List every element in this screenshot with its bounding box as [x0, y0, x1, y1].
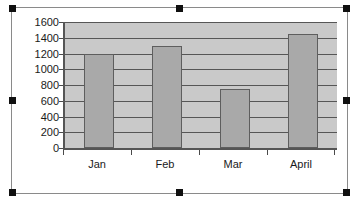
resize-handle-middle-left[interactable] [9, 97, 16, 104]
y-axis-tick-label: 1200 [15, 49, 59, 59]
x-axis-label-feb: Feb [131, 158, 199, 171]
x-axis-tick-mark [131, 150, 132, 155]
y-axis-tick-label: 800 [15, 80, 59, 90]
x-axis-tick-mark [63, 150, 64, 155]
x-axis-label-jan: Jan [63, 158, 131, 171]
bar-feb[interactable] [152, 46, 182, 148]
resize-handle-middle-right[interactable] [343, 97, 350, 104]
resize-handle-bottom-center[interactable] [176, 189, 183, 196]
y-axis-tick-label: 600 [15, 96, 59, 106]
x-axis-labels: JanFebMarApril [63, 158, 335, 174]
x-axis-tick-mark [199, 150, 200, 155]
selected-chart-object[interactable]: 16001400120010008006004002000 JanFebMarA… [11, 7, 348, 194]
resize-handle-bottom-right[interactable] [343, 189, 350, 196]
x-axis-label-april: April [267, 158, 335, 171]
plot-area [63, 22, 337, 150]
y-axis-tick-label: 200 [15, 127, 59, 137]
x-axis-ticks [63, 150, 335, 155]
resize-handle-top-right[interactable] [343, 5, 350, 12]
bar-jan[interactable] [84, 54, 114, 149]
y-axis-tick-label: 0 [15, 143, 59, 153]
resize-handle-top-left[interactable] [9, 5, 16, 12]
y-axis-tick-label: 1000 [15, 64, 59, 74]
y-axis-labels: 16001400120010008006004002000 [12, 22, 59, 148]
x-axis-tick-mark [334, 150, 335, 155]
bar-mar[interactable] [220, 89, 250, 148]
resize-handle-bottom-left[interactable] [9, 189, 16, 196]
y-axis-tick-label: 1600 [15, 17, 59, 27]
bar-april[interactable] [288, 34, 318, 148]
resize-handle-top-center[interactable] [176, 5, 183, 12]
x-axis-tick-mark [267, 150, 268, 155]
gridline-1600 [65, 22, 337, 23]
bar-chart[interactable]: 16001400120010008006004002000 JanFebMarA… [12, 8, 347, 193]
x-axis-label-mar: Mar [199, 158, 267, 171]
y-axis-tick-label: 1400 [15, 33, 59, 43]
y-axis-tick-label: 400 [15, 112, 59, 122]
